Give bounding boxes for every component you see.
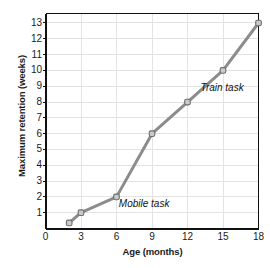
data-series-line — [69, 23, 258, 223]
annotation-mobile-task: Mobile task — [119, 198, 170, 209]
retention-line-chart: Maximum retention (weeks) 12345678910111… — [0, 0, 269, 268]
x-tick-label: 9 — [140, 231, 164, 242]
x-tick-label: 18 — [247, 231, 270, 242]
x-tick-label: 0 — [34, 231, 58, 242]
x-tick-label: 15 — [211, 231, 235, 242]
annotation-train-task: Train task — [201, 82, 244, 93]
x-axis-title: Age (months) — [45, 246, 260, 257]
plot-area — [0, 0, 269, 268]
vertical-gridlines — [81, 14, 223, 229]
x-axis-tick-labels: 0369121518 — [0, 231, 269, 245]
x-tick-label: 6 — [105, 231, 129, 242]
x-tick-label: 3 — [69, 231, 93, 242]
x-tick-label: 12 — [176, 231, 200, 242]
